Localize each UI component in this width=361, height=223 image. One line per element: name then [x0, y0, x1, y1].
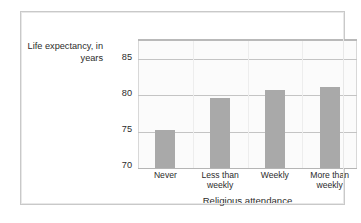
y-axis-title: Life expectancy, in years — [24, 41, 103, 64]
category-divider — [302, 41, 303, 168]
y-tick-label: 70 — [108, 161, 132, 170]
y-tick-label: 85 — [108, 53, 132, 62]
bar — [210, 98, 230, 168]
category-divider — [193, 41, 194, 168]
x-axis-baseline — [138, 168, 357, 169]
bar — [155, 130, 175, 168]
x-axis-title: Religious attendance — [138, 195, 357, 206]
x-tick-label: Never — [138, 170, 193, 180]
bar — [320, 87, 340, 168]
y-tick-label: 75 — [108, 125, 132, 134]
plot-area — [138, 39, 357, 168]
x-tick-label: More than weekly — [302, 170, 357, 190]
bar — [265, 90, 285, 168]
x-tick-label: Less than weekly — [193, 170, 248, 190]
figure-frame: Life expectancy, in years Religious atte… — [20, 11, 345, 205]
x-tick-label: Weekly — [248, 170, 303, 180]
category-divider — [248, 41, 249, 168]
y-tick-label: 80 — [108, 89, 132, 98]
